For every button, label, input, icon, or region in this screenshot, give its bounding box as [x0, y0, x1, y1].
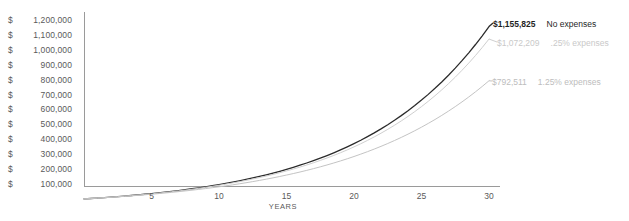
- series-line-no-expenses: [84, 27, 489, 199]
- chart-plot-area: [0, 0, 629, 221]
- series-group: [84, 27, 489, 199]
- x-axis-tick-label: 30: [474, 191, 504, 201]
- annotation-leader-line: [489, 39, 497, 42]
- series-end-value-quarter-percent: $1,072,209: [497, 38, 540, 48]
- series-legend-one-quarter-percent: 1.25% expenses: [538, 77, 601, 87]
- series-end-value-one-quarter-percent: $792,511: [492, 77, 527, 87]
- series-annotation-quarter-percent: $1,072,209.25% expenses: [497, 38, 609, 48]
- series-line-one-quarter-percent: [84, 81, 489, 199]
- x-axis-tick-label: 15: [272, 191, 302, 201]
- x-axis-tick-label: 25: [407, 191, 437, 201]
- series-annotation-one-quarter-percent: $792,5111.25% expenses: [492, 77, 601, 87]
- x-axis-tick-label: 5: [137, 191, 167, 201]
- x-axis-tick-label: 20: [339, 191, 369, 201]
- x-axis-tick-label: 10: [204, 191, 234, 201]
- series-annotation-no-expenses: $1,155,825No expenses: [493, 19, 596, 29]
- series-legend-no-expenses: No expenses: [547, 19, 597, 29]
- x-axis-title: YEARS: [253, 202, 313, 211]
- series-end-value-no-expenses: $1,155,825: [493, 19, 536, 29]
- series-legend-quarter-percent: .25% expenses: [551, 38, 609, 48]
- chart-container: $1,200,000$1,100,000$1,000,000$900,000$8…: [0, 0, 629, 221]
- annotation-leader-lines: [489, 23, 497, 81]
